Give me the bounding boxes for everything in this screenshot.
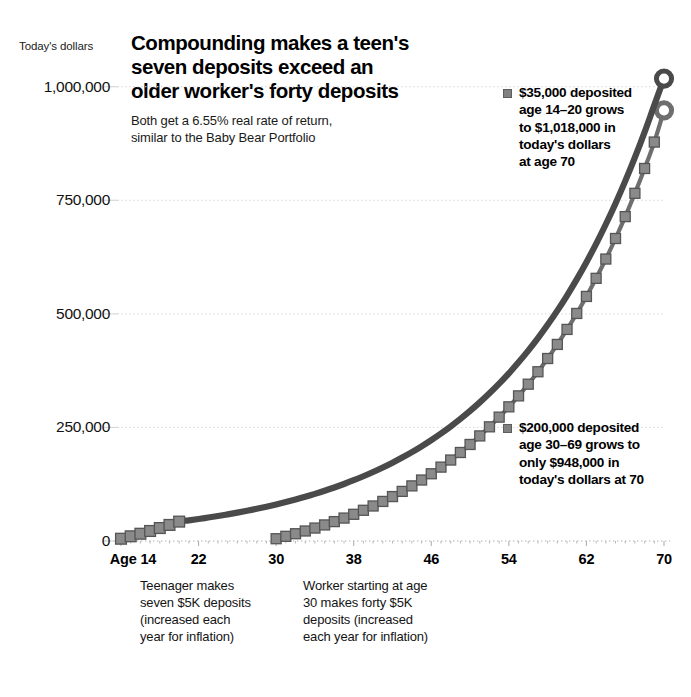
- deposit-square-marker: [300, 526, 310, 536]
- deposit-square-marker: [407, 481, 417, 491]
- deposit-square-marker: [572, 308, 582, 318]
- worker-annotation-line-2: age 30–69 grows to: [519, 436, 689, 453]
- worker-caption: Worker starting at age 30 makes forty $5…: [303, 578, 483, 646]
- deposit-square-marker: [388, 492, 398, 502]
- y-axis-tick-label: 750,000: [0, 191, 110, 209]
- x-axis-tick-label: Age 14: [110, 551, 156, 567]
- deposit-square-marker: [291, 529, 301, 539]
- worker-annotation-line-1: $200,000 deposited: [519, 419, 689, 436]
- teen-annotation-line-4: today's dollars: [519, 136, 685, 153]
- deposit-square-marker: [397, 486, 407, 496]
- deposit-square-marker: [378, 496, 388, 506]
- deposit-square-marker: [504, 402, 514, 412]
- y-axis-tick-label: 1,000,000: [0, 78, 110, 96]
- deposit-square-marker: [601, 254, 611, 264]
- deposit-square-marker: [591, 273, 601, 283]
- deposit-square-marker: [436, 462, 446, 472]
- deposit-square-marker: [494, 412, 504, 422]
- deposit-square-marker: [455, 447, 465, 457]
- x-axis-tick-label: 22: [191, 551, 207, 567]
- deposit-square-marker: [417, 475, 427, 485]
- worker-caption-line-3: deposits (increased: [303, 612, 483, 629]
- teen-caption: Teenager makes seven $5K deposits (incre…: [140, 578, 305, 646]
- teen-annotation-square-marker-icon: [503, 89, 512, 98]
- deposit-square-marker: [310, 523, 320, 533]
- deposit-square-marker: [329, 517, 339, 527]
- deposit-square-marker: [562, 324, 572, 334]
- x-axis-tick-label: 70: [656, 551, 672, 567]
- teen-caption-line-2: seven $5K deposits: [140, 595, 305, 612]
- worker-annotation-line-4: today's dollars at 70: [519, 471, 689, 488]
- teen-caption-line-1: Teenager makes: [140, 578, 305, 595]
- teen-annotation: $35,000 deposited age 14–20 grows to $1,…: [519, 84, 685, 170]
- deposit-square-marker: [465, 439, 475, 449]
- deposit-square-marker: [620, 212, 630, 222]
- deposit-square-marker: [446, 455, 456, 465]
- y-axis-tick-label: 250,000: [0, 418, 110, 436]
- y-axis-tick-label: 0: [0, 532, 110, 550]
- worker-caption-line-1: Worker starting at age: [303, 578, 483, 595]
- x-axis-tick-label: 46: [423, 551, 439, 567]
- deposit-square-marker: [349, 509, 359, 519]
- x-axis-tick-label: 54: [501, 551, 517, 567]
- worker-annotation-line-3: only $948,000 in: [519, 454, 689, 471]
- deposit-square-marker: [281, 531, 291, 541]
- teen-caption-line-3: (increased each: [140, 612, 305, 629]
- worker-caption-line-2: 30 makes forty $5K: [303, 595, 483, 612]
- teen-annotation-line-1: $35,000 deposited: [519, 84, 685, 101]
- deposit-square-marker: [271, 534, 281, 544]
- teen-annotation-line-2: age 14–20 grows: [519, 101, 685, 118]
- worker-caption-line-4: each year for inflation): [303, 629, 483, 646]
- x-axis-tick-label: 62: [579, 551, 595, 567]
- deposit-square-marker: [358, 505, 368, 515]
- deposit-square-marker: [514, 391, 524, 401]
- deposit-square-marker: [552, 339, 562, 349]
- deposit-square-marker: [368, 501, 378, 511]
- deposit-square-marker: [543, 354, 553, 364]
- teen-annotation-line-3: to $1,018,000 in: [519, 119, 685, 136]
- teen-annotation-line-5: at age 70: [519, 153, 685, 170]
- deposit-square-marker: [484, 422, 494, 432]
- deposit-square-marker: [533, 367, 543, 377]
- worker-annotation-square-marker-icon: [503, 424, 512, 433]
- y-axis-tick-label: 500,000: [0, 305, 110, 323]
- teen-caption-line-4: year for inflation): [140, 629, 305, 646]
- deposit-square-marker: [426, 469, 436, 479]
- deposit-square-marker: [320, 520, 330, 530]
- deposit-square-marker: [523, 379, 533, 389]
- chart-root: Today's dollars Compounding makes a teen…: [0, 0, 691, 697]
- x-axis-tick-label: 38: [346, 551, 362, 567]
- deposit-square-marker: [611, 234, 621, 244]
- worker-annotation: $200,000 deposited age 30–69 grows to on…: [519, 419, 689, 488]
- deposit-square-marker: [581, 291, 591, 301]
- deposit-square-marker: [475, 431, 485, 441]
- x-axis-tick-label: 30: [268, 551, 284, 567]
- deposit-square-marker: [174, 516, 185, 527]
- deposit-square-marker: [630, 188, 640, 198]
- deposit-square-marker: [339, 513, 349, 523]
